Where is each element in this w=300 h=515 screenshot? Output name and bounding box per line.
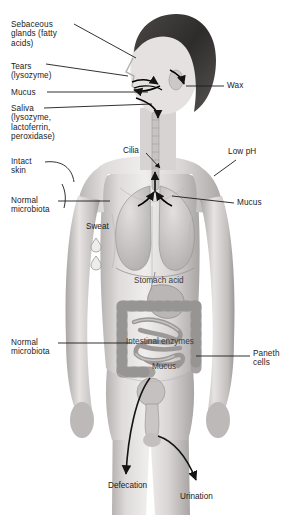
arrow-lung-left xyxy=(138,192,154,206)
excretion-arrows xyxy=(126,378,196,480)
label-normal-microbiota-skin: Normal microbiota xyxy=(11,196,50,215)
leader-low-ph xyxy=(214,160,236,176)
arrow-oral xyxy=(136,98,158,118)
label-low-ph: Low pH xyxy=(228,147,256,156)
label-tears: Tears (lysozyme) xyxy=(11,62,52,81)
leader-intact-skin xyxy=(45,162,74,182)
label-intestinal-enzymes: Intestinal enzymes xyxy=(126,337,194,346)
label-urination: Urination xyxy=(180,492,213,501)
label-paneth-cells: Paneth cells xyxy=(253,349,280,368)
label-cilia: Cilia xyxy=(123,146,139,155)
arrow-urination xyxy=(158,436,196,480)
label-mucus-lung: Mucus xyxy=(237,198,262,207)
leader-cilia xyxy=(146,153,160,168)
sweat-droplets xyxy=(91,238,101,270)
leader-sebaceous xyxy=(74,24,136,58)
label-normal-microbiota-gut: Normal microbiota xyxy=(11,338,50,357)
arrow-ear-wax xyxy=(170,70,184,84)
flow-arrows xyxy=(132,70,184,206)
label-defecation: Defecation xyxy=(108,481,147,490)
arrow-lung-right xyxy=(156,192,172,206)
arrow-nasal-back xyxy=(134,86,160,91)
leader-saliva xyxy=(44,104,152,108)
label-wax: Wax xyxy=(227,81,243,90)
label-sweat: Sweat xyxy=(86,222,109,231)
anatomy-figure: Sebaceous glands (fatty acids) Tears (ly… xyxy=(0,0,300,515)
label-stomach-acid: Stomach acid xyxy=(134,276,184,285)
bracket-intact-skin xyxy=(62,184,65,208)
label-mucus-intestine: Mucus xyxy=(152,362,176,371)
label-mucus-nose: Mucus xyxy=(11,88,36,97)
leader-mucus-lung xyxy=(172,196,234,203)
leader-tears xyxy=(46,64,128,76)
arrow-nasal xyxy=(132,80,158,84)
label-intact-skin: Intact skin xyxy=(11,157,32,176)
label-saliva: Saliva (lysozyme, lactoferrin, peroxidas… xyxy=(11,104,55,142)
label-sebaceous-glands: Sebaceous glands (fatty acids) xyxy=(11,20,57,48)
arrow-defecation xyxy=(126,378,150,474)
